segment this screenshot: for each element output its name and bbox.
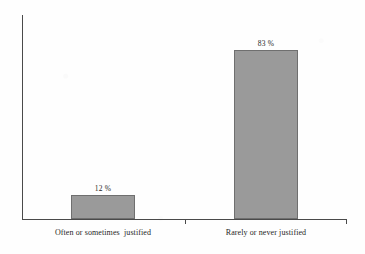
x-axis-category-labels: Often or sometimes justified Rarely or n… <box>0 228 365 242</box>
plot-area: 12 % 83 % <box>0 0 365 219</box>
x-axis-tick-end <box>346 220 347 224</box>
x-axis-label-often-or-sometimes-justified: Often or sometimes justified <box>33 228 173 237</box>
bar-chart-figure: 12 % 83 % Often or sometimes justified R… <box>0 0 365 254</box>
bar-value-label-rarely-or-never-justified: 83 % <box>234 39 298 48</box>
x-axis-label-rarely-or-never-justified: Rarely or never justified <box>196 228 336 237</box>
bar-value-label-often-or-sometimes-justified: 12 % <box>71 184 135 193</box>
bar-often-or-sometimes-justified <box>71 195 135 219</box>
x-axis-tick-middle <box>185 220 186 224</box>
bar-rarely-or-never-justified <box>234 50 298 219</box>
